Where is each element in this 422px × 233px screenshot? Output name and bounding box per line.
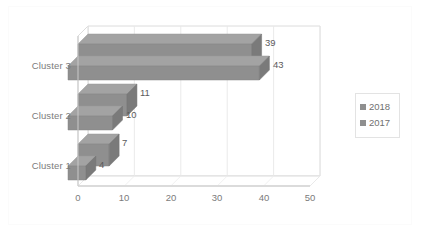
- data-label-cluster3-2018: 39: [265, 37, 276, 48]
- legend-label-2017: 2017: [369, 118, 390, 128]
- legend-swatch-icon: [360, 104, 366, 110]
- floor: [78, 176, 320, 186]
- data-label-cluster1-2018: 7: [122, 137, 127, 148]
- bar-front-face: [68, 66, 259, 80]
- chart-legend: 2018 2017: [355, 93, 400, 138]
- bar-cluster2-2017: [68, 106, 123, 130]
- legend-label-2018: 2018: [369, 102, 390, 112]
- data-label-cluster3-2017: 43: [273, 59, 284, 70]
- xtick-label-50: 50: [298, 192, 322, 203]
- bar-top-face: [68, 56, 269, 66]
- data-label-cluster2-2018: 11: [140, 87, 150, 98]
- bar-top-face: [78, 34, 262, 44]
- xtick-label-20: 20: [159, 192, 183, 203]
- category-label-cluster-3: Cluster 3: [13, 60, 71, 71]
- xtick-label-0: 0: [66, 192, 90, 203]
- category-label-cluster-1: Cluster 1: [13, 160, 71, 171]
- xtick-label-40: 40: [252, 192, 276, 203]
- bar-front-face: [68, 116, 113, 130]
- legend-item-2017[interactable]: 2017: [360, 115, 399, 131]
- xtick-label-30: 30: [205, 192, 229, 203]
- category-label-cluster-2: Cluster 2: [13, 110, 71, 121]
- data-label-cluster1-2017: 4: [99, 159, 104, 170]
- data-label-cluster2-2017: 10: [126, 109, 137, 120]
- legend-swatch-icon: [360, 120, 366, 126]
- bar-cluster3-2017: [68, 56, 269, 80]
- chart-container: Cluster 3 Cluster 2 Cluster 1 0 10 20 30…: [0, 0, 422, 233]
- xtick-label-10: 10: [112, 192, 136, 203]
- legend-item-2018[interactable]: 2018: [360, 99, 399, 115]
